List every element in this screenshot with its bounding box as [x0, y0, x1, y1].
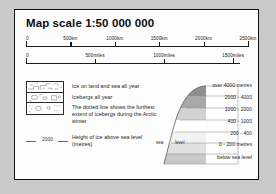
scale-tick-label-km-5: 2500km	[240, 36, 257, 41]
scale-tick-km-1	[70, 42, 71, 47]
elevation-key-diagram: over 4000 metres 2000 - 4000 1000 - 2000…	[160, 74, 252, 172]
scale-tick-label-miles-1: 500miles	[85, 53, 104, 58]
scale-tick-km-5	[248, 41, 249, 47]
contour-line-sample: 2000	[26, 136, 68, 146]
key-entry-ice-on-land-and-sea: Ice on land and sea all year	[72, 83, 139, 90]
elevation-label-200-400: 200 - 400	[230, 130, 252, 136]
key-entry-icebergs: Icebergs all year	[72, 94, 112, 101]
key-entry-iceberg-extent: The dotted line shows the furthest exten…	[72, 104, 158, 126]
scale-tick-miles-3	[233, 58, 234, 64]
elevation-label-0-200: 0 - 200 metres	[219, 141, 252, 147]
scale-tick-label-km-0: 0	[26, 36, 29, 41]
elevation-label-400-1000: 400 - 1000	[228, 118, 252, 124]
key-entry-ice-height: Height of ice above sea level (metres)	[72, 134, 152, 148]
sea-level-label-sea: sea	[156, 140, 163, 145]
contour-value-label: 2000	[37, 136, 58, 142]
sea-level-label-level: level	[175, 140, 184, 145]
ice-on-land-and-sea-symbol	[27, 82, 63, 93]
scale-tick-label-miles-0: 0	[26, 53, 29, 58]
scale-tick-label-miles-2: 1000miles	[153, 53, 175, 58]
scale-tick-label-km-4: 2000km	[195, 36, 212, 41]
contour-line-right	[58, 141, 68, 142]
scale-bar-km: 0500km1000km1500km2000km2500km	[26, 34, 248, 50]
scale-tick-km-4	[204, 42, 205, 47]
elevation-label-over-4000: over 4000 metres	[212, 82, 252, 88]
elevation-label-below-sea: below sea level	[217, 154, 252, 160]
scale-tick-miles-1	[95, 59, 96, 64]
elevation-label-2000-4000: 2000 - 4000	[225, 94, 252, 100]
scale-tick-label-km-1: 500km	[63, 36, 77, 41]
scale-tick-label-miles-3: 1500miles	[222, 53, 244, 58]
map-scale-key-panel: Map scale 1:50 000 000 0500km1000km1500k…	[14, 9, 259, 180]
scale-tick-label-km-3: 1500km	[151, 36, 168, 41]
iceberg-extent-symbol	[27, 103, 63, 114]
icebergs-symbol	[27, 93, 63, 104]
scale-bar-miles: 0500miles1000miles1500miles	[26, 51, 248, 67]
scale-tick-km-0	[26, 41, 27, 47]
ice-symbol-key-box	[26, 81, 64, 115]
scale-tick-label-km-2: 1000km	[106, 36, 123, 41]
scale-tick-miles-2	[164, 59, 165, 64]
scale-tick-km-3	[159, 42, 160, 47]
page-title: Map scale 1:50 000 000	[26, 17, 154, 29]
scale-tick-miles-0	[26, 58, 27, 64]
contour-line-left	[26, 141, 36, 142]
elevation-label-1000-2000: 1000 - 2000	[225, 106, 252, 112]
scale-tick-km-2	[115, 42, 116, 47]
